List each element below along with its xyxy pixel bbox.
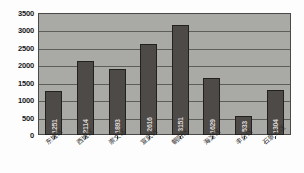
y-axis-tick-label: 1000 — [18, 96, 34, 105]
bar-slot: 1304 — [259, 13, 291, 135]
y-axis-tick-label: 0 — [30, 131, 34, 140]
y-axis-tick-label: 3000 — [18, 26, 34, 35]
y-axis: 0500100015002000250030003500 — [0, 0, 38, 136]
x-axis-slot: 朝阳区 — [165, 136, 197, 173]
bar-slot: 1251 — [38, 13, 70, 135]
y-axis-tick-label: 3500 — [18, 9, 34, 18]
y-axis-tick-label: 2000 — [18, 61, 34, 70]
bar[interactable]: 3151 — [172, 25, 189, 135]
bar-chart: 0500100015002000250030003500 12512114189… — [0, 0, 304, 173]
bar-slot: 1629 — [196, 13, 228, 135]
bar[interactable]: 1893 — [109, 69, 126, 135]
bar[interactable]: 2616 — [140, 44, 157, 135]
y-axis-tick-label: 500 — [22, 113, 34, 122]
x-axis-slot: 宣武区 — [133, 136, 165, 173]
x-axis-slot: 西城区 — [70, 136, 102, 173]
bar-slot: 1893 — [101, 13, 133, 135]
x-axis-slot: 海淀区 — [196, 136, 228, 173]
x-axis-slot: 崇文区 — [101, 136, 133, 173]
y-axis-tick-label: 2500 — [18, 43, 34, 52]
bar[interactable]: 2114 — [77, 61, 94, 135]
bar-slot: 2114 — [70, 13, 102, 135]
bar-slot: 2616 — [133, 13, 165, 135]
bar[interactable]: 1629 — [203, 78, 220, 135]
x-axis-slot: 石景山区 — [259, 136, 291, 173]
bar-slot: 533 — [228, 13, 260, 135]
bar-series: 1251211418932616315116295331304 — [38, 13, 291, 135]
x-axis: 东城区西城区崇文区宣武区朝阳区海淀区丰台区石景山区 — [38, 136, 291, 173]
bar-slot: 3151 — [165, 13, 197, 135]
y-axis-tick-label: 1500 — [18, 78, 34, 87]
x-axis-slot: 丰台区 — [228, 136, 260, 173]
x-axis-slot: 东城区 — [38, 136, 70, 173]
